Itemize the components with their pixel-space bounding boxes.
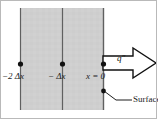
node-dot-minus-dx	[60, 61, 65, 66]
node-label-minus-dx: − Δx	[48, 72, 65, 81]
surface-callout-leader	[104, 91, 132, 100]
surface-callout-label: Surface	[133, 95, 158, 104]
node-label-surface: x = 0	[86, 72, 105, 81]
surface-callout-dot	[101, 89, 106, 94]
surface-node-heat-flux-figure: −2 Δx − Δx x = 0 q″ Surface	[0, 0, 158, 120]
node-label-minus-2dx: −2 Δx	[2, 72, 24, 81]
heat-flux-label: q″	[117, 54, 125, 63]
heat-flux-arrow	[103, 48, 156, 78]
node-dot-surface	[101, 61, 106, 66]
medium-texture	[20, 8, 103, 110]
node-dot-minus-2dx	[18, 61, 23, 66]
